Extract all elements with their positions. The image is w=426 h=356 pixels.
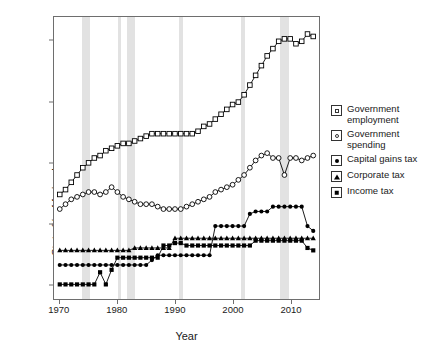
- data-point: [86, 161, 91, 166]
- data-point: [161, 253, 165, 257]
- data-point: [98, 192, 103, 197]
- data-point: [104, 263, 108, 267]
- data-point: [196, 199, 201, 204]
- data-point: [75, 173, 80, 178]
- data-point: [282, 173, 287, 178]
- data-point: [299, 39, 304, 44]
- data-point: [248, 212, 252, 216]
- data-point: [190, 243, 194, 247]
- data-point: [271, 156, 276, 161]
- legend-item-government[interactable]: Governmentspending: [331, 129, 426, 150]
- data-point: [127, 256, 131, 260]
- data-point: [282, 239, 286, 243]
- data-point: [150, 131, 155, 136]
- data-point: [178, 131, 183, 136]
- data-point: [219, 112, 224, 117]
- data-point: [57, 207, 62, 212]
- data-point: [236, 177, 241, 182]
- data-point: [253, 158, 258, 163]
- legend-item-label: Capital gains tax: [347, 154, 417, 165]
- data-point: [253, 73, 258, 78]
- data-point: [121, 263, 125, 267]
- data-point: [219, 224, 223, 228]
- data-point: [230, 224, 234, 228]
- data-point: [115, 190, 120, 195]
- data-point: [299, 158, 304, 163]
- data-point: [81, 263, 85, 267]
- data-point: [173, 207, 178, 212]
- data-point: [178, 207, 183, 212]
- data-point: [242, 243, 246, 247]
- data-point: [271, 239, 275, 243]
- x-tick-label: 2010: [280, 304, 301, 315]
- data-point: [121, 256, 125, 260]
- data-point: [282, 205, 286, 209]
- data-point: [288, 37, 293, 42]
- data-point: [81, 165, 86, 170]
- data-point: [213, 243, 217, 247]
- data-point: [247, 165, 252, 170]
- data-point: [69, 197, 74, 202]
- series-government-employment: [57, 32, 315, 197]
- data-point: [133, 256, 137, 260]
- data-point: [92, 263, 96, 267]
- data-point: [138, 263, 142, 267]
- data-point: [104, 148, 109, 153]
- data-point: [305, 32, 310, 37]
- x-axis-label: Year: [53, 330, 320, 342]
- data-point: [127, 141, 132, 146]
- data-point: [225, 243, 229, 247]
- data-point: [259, 63, 264, 68]
- legend-item-government[interactable]: Governmentemployment: [331, 104, 426, 125]
- data-point: [248, 83, 253, 88]
- filled-triangle-marker-icon: [331, 171, 342, 182]
- data-point: [69, 282, 73, 286]
- data-point: [173, 253, 177, 257]
- data-point: [288, 239, 292, 243]
- data-point: [196, 253, 200, 257]
- data-point: [300, 205, 304, 209]
- data-point: [179, 253, 183, 257]
- data-point: [104, 282, 108, 286]
- legend-item-label: Governmentspending: [347, 129, 399, 150]
- data-point: [98, 263, 102, 267]
- data-point: [80, 192, 85, 197]
- data-point: [294, 156, 299, 161]
- data-point: [259, 239, 263, 243]
- data-point: [161, 243, 165, 247]
- data-point: [311, 248, 315, 252]
- legend-item-label: Governmentemployment: [347, 104, 399, 125]
- data-point: [110, 268, 114, 272]
- data-point: [115, 256, 119, 260]
- legend-item-corporate-tax[interactable]: Corporate tax: [331, 170, 426, 182]
- data-point: [132, 199, 137, 204]
- data-point: [81, 282, 85, 286]
- data-point: [201, 124, 206, 129]
- data-point: [242, 224, 246, 228]
- legend-item-capital-gains-tax[interactable]: Capital gains tax: [331, 154, 426, 166]
- chart-legend: GovernmentemploymentGovernmentspendingCa…: [331, 104, 426, 202]
- data-point: [294, 41, 299, 46]
- data-point: [311, 153, 316, 158]
- data-point: [196, 129, 201, 134]
- x-tick-label: 1990: [164, 304, 185, 315]
- data-point: [75, 195, 80, 200]
- data-point: [265, 209, 269, 213]
- data-point: [282, 37, 287, 42]
- data-point: [144, 134, 149, 139]
- legend-item-income-tax[interactable]: Income tax: [331, 186, 426, 198]
- data-point: [179, 241, 183, 245]
- data-point: [242, 93, 247, 98]
- data-point: [236, 100, 241, 105]
- data-point: [230, 182, 235, 187]
- data-point: [167, 243, 171, 247]
- data-point: [121, 141, 126, 146]
- data-point: [201, 197, 206, 202]
- data-point: [207, 253, 211, 257]
- data-point: [254, 239, 258, 243]
- data-point: [63, 202, 68, 207]
- data-point: [190, 253, 194, 257]
- data-point: [150, 202, 155, 207]
- data-point: [115, 263, 119, 267]
- data-point: [98, 270, 102, 274]
